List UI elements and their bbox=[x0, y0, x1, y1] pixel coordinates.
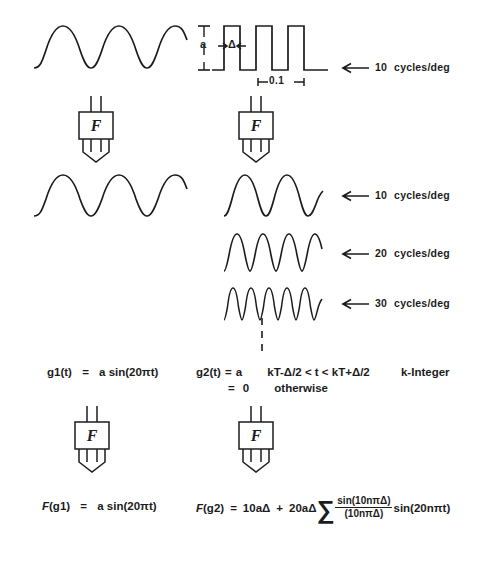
fg2-dc-term: 10aΔ bbox=[243, 502, 270, 514]
input-frequency-arrow bbox=[340, 62, 370, 74]
harmonic-wave-30 bbox=[222, 282, 332, 328]
g1-rhs: a sin(20πt) bbox=[99, 366, 158, 378]
harmonic-frequency-20: 20 bbox=[375, 247, 387, 259]
input-frequency-value: 10 bbox=[375, 61, 387, 73]
left-output-sine-wave bbox=[30, 168, 190, 226]
harmonic-unit-20: cycles/deg bbox=[394, 247, 450, 259]
g2-lhs: g2(t) bbox=[196, 366, 221, 378]
equation-fg2-output: F(g2) = 10aΔ + 20aΔ ∑ sin(10nπΔ) (10nπΔ)… bbox=[196, 496, 450, 520]
equation-g2-input-line2: =0 otherwise bbox=[228, 382, 328, 394]
fourier-operator-right-bottom: F bbox=[228, 406, 284, 474]
fg2-equals: = bbox=[224, 502, 243, 514]
fourier-operator-left-bottom: F bbox=[64, 406, 120, 474]
fg2-operator: F bbox=[196, 502, 203, 514]
summation-icon: ∑ bbox=[316, 499, 334, 519]
g1-lhs: g1(t) bbox=[47, 366, 72, 378]
svg-text:F: F bbox=[86, 427, 98, 444]
fg2-plus: + bbox=[270, 502, 289, 514]
right-input-square-wave bbox=[196, 18, 346, 78]
g2-value-2: 0 bbox=[235, 382, 249, 394]
equation-g1-input: g1(t) = a sin(20πt) bbox=[47, 366, 158, 378]
fg2-coefficient: 20aΔ bbox=[289, 502, 316, 514]
input-frequency-label: 10cycles/deg bbox=[375, 61, 450, 73]
g2-condition-1: kT-Δ/2 < t < kT+Δ/2 bbox=[245, 366, 370, 378]
g2-equals-1: = bbox=[221, 366, 236, 378]
sinc-numerator: sin(10nπΔ) bbox=[335, 495, 392, 507]
fourier-operator-left-top: F bbox=[68, 96, 124, 164]
g2-equals-2: = bbox=[228, 382, 235, 394]
fg1-equals: = bbox=[73, 500, 94, 512]
harmonic-arrow-20 bbox=[340, 248, 370, 260]
continuation-dashed-line bbox=[258, 318, 266, 354]
period-label: 0.1 bbox=[269, 75, 284, 86]
harmonic-label-10: 10cycles/deg bbox=[375, 189, 450, 201]
fg2-arg: (g2) bbox=[203, 502, 224, 514]
harmonic-label-20: 20cycles/deg bbox=[375, 247, 450, 259]
equation-fg1-output: F(g1) = a sin(20πt) bbox=[42, 500, 157, 512]
svg-text:F: F bbox=[250, 117, 262, 134]
amplitude-label: a bbox=[200, 38, 206, 50]
svg-text:F: F bbox=[90, 117, 102, 134]
harmonic-arrow-10 bbox=[340, 190, 370, 202]
g2-condition-2: otherwise bbox=[252, 382, 328, 394]
sinc-denominator: (10nπΔ) bbox=[335, 507, 392, 520]
harmonic-unit-30: cycles/deg bbox=[394, 297, 450, 309]
input-frequency-unit: cycles/deg bbox=[394, 61, 450, 73]
harmonic-label-30: 30cycles/deg bbox=[375, 297, 450, 309]
figure-canvas: F a Δ 0.1 bbox=[0, 0, 483, 565]
fg1-operator: F bbox=[42, 500, 49, 512]
equation-g2-input-line1: g2(t)=a kT-Δ/2 < t < kT+Δ/2 k-Integer bbox=[196, 366, 450, 378]
harmonic-frequency-10: 10 bbox=[375, 189, 387, 201]
svg-text:F: F bbox=[250, 427, 262, 444]
harmonic-arrow-30 bbox=[340, 298, 370, 310]
g2-value-1: a bbox=[236, 366, 242, 378]
fg1-arg: (g1) bbox=[49, 500, 70, 512]
g2-integer-note: k-Integer bbox=[373, 366, 450, 378]
fourier-operator-right-top: F bbox=[228, 96, 284, 164]
harmonic-unit-10: cycles/deg bbox=[394, 189, 450, 201]
fg1-rhs: a sin(20πt) bbox=[97, 500, 156, 512]
harmonic-frequency-30: 30 bbox=[375, 297, 387, 309]
left-input-sine-wave bbox=[30, 18, 190, 78]
g1-equals: = bbox=[75, 366, 96, 378]
fg2-sine-term: sin(20nπt) bbox=[393, 502, 450, 514]
harmonic-wave-20 bbox=[222, 228, 332, 280]
sinc-fraction: sin(10nπΔ) (10nπΔ) bbox=[335, 495, 392, 519]
pulse-width-label: Δ bbox=[228, 38, 236, 50]
harmonic-wave-10 bbox=[222, 168, 332, 226]
